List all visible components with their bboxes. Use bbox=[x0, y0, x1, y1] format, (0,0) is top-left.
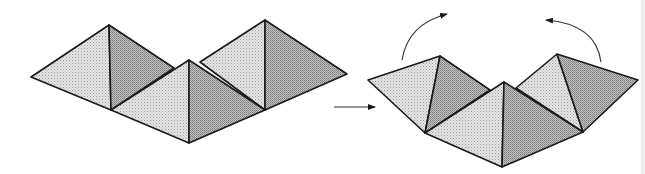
pyramid-face-dark bbox=[265, 20, 347, 110]
flat-net bbox=[31, 20, 347, 143]
image-edge bbox=[641, 0, 645, 174]
pyramid-face-light bbox=[31, 25, 111, 110]
folding-diagram bbox=[0, 0, 645, 174]
rotation-arrow-left bbox=[402, 14, 447, 60]
folded-net bbox=[368, 14, 638, 167]
